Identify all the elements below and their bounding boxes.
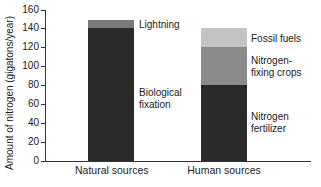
- y-tick-label: 160: [22, 5, 39, 15]
- y-tick: [41, 104, 45, 105]
- label-fertilizer-1: Nitrogen: [251, 111, 289, 122]
- y-tick: [41, 142, 45, 143]
- label-biological-1: Biological: [139, 87, 182, 98]
- x-category-natural: Natural sources: [75, 164, 147, 176]
- y-tick-label: 40: [28, 118, 39, 128]
- y-tick: [41, 161, 45, 162]
- label-lightning: Lightning: [139, 19, 180, 30]
- bar-biological-fixation: [88, 28, 134, 161]
- bar-nitrogen-fertilizer: [201, 85, 247, 161]
- y-tick: [41, 10, 45, 11]
- label-fertilizer-2: fertilizer: [251, 123, 286, 134]
- y-tick: [41, 28, 45, 29]
- label-crops-1: Nitrogen-: [251, 55, 292, 66]
- bar-nitrogen-fixing-crops: [201, 47, 247, 85]
- y-tick-label: 100: [22, 61, 39, 71]
- y-tick-label: 120: [22, 42, 39, 52]
- label-fossil-fuels: Fossil fuels: [251, 33, 301, 44]
- y-axis-line: [45, 10, 46, 162]
- y-tick-label: 80: [28, 80, 39, 90]
- x-axis-line: [45, 161, 311, 162]
- y-axis-title: Amount of nitrogen (gigatons/year): [2, 8, 16, 178]
- y-tick-label: 20: [28, 137, 39, 147]
- label-biological-2: fixation: [139, 99, 171, 110]
- y-tick: [41, 47, 45, 48]
- x-category-human: Human sources: [187, 164, 261, 176]
- y-tick: [41, 85, 45, 86]
- bar-fossil-fuels: [201, 28, 247, 47]
- y-tick-label: 60: [28, 99, 39, 109]
- y-axis-title-text: Amount of nitrogen (gigatons/year): [4, 16, 15, 170]
- y-tick-label: 0: [33, 156, 39, 166]
- label-crops-2: fixing crops: [251, 67, 302, 78]
- y-tick: [41, 123, 45, 124]
- bar-lightning: [88, 20, 134, 28]
- y-tick: [41, 66, 45, 67]
- y-tick-label: 140: [22, 23, 39, 33]
